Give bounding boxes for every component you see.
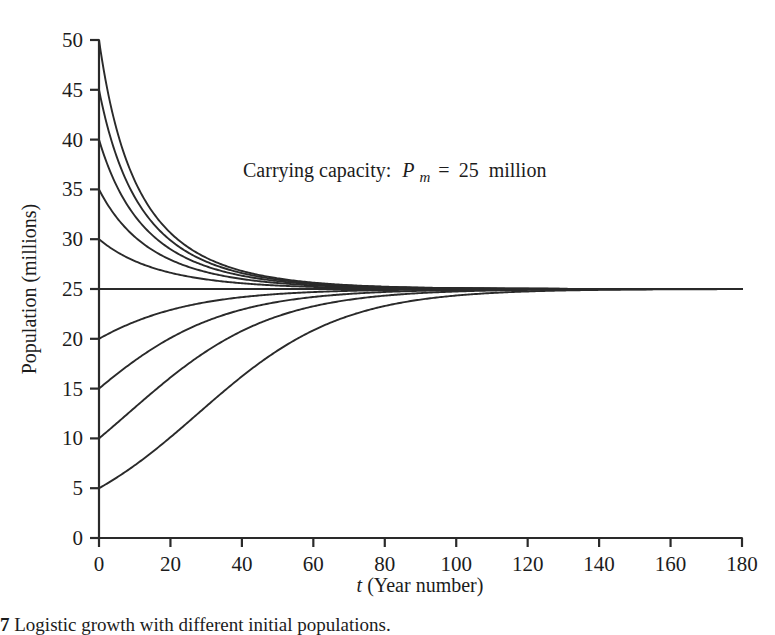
x-tick-label: 140	[583, 552, 615, 576]
x-tick-label: 160	[655, 552, 687, 576]
annotation-value: 25	[459, 159, 479, 181]
y-tick-label: 5	[73, 476, 84, 500]
annotation-unit: million	[489, 159, 547, 181]
x-tick-label: 120	[512, 552, 544, 576]
x-tick-label: 180	[726, 552, 758, 576]
logistic-growth-chart: 05101520253035404550 0204060801001201401…	[0, 0, 775, 612]
y-tick-label: 15	[62, 377, 83, 401]
y-axis-title: Population (millions)	[18, 204, 41, 375]
annotation-symbol: P	[401, 159, 414, 181]
y-tick-label: 35	[62, 177, 83, 201]
annotation-prefix: Carrying capacity:	[243, 159, 391, 182]
y-tick-label: 30	[62, 227, 83, 251]
x-tick-label: 0	[94, 552, 105, 576]
x-tick-label: 40	[231, 552, 252, 576]
x-tick-label: 100	[440, 552, 472, 576]
y-tick-label: 25	[62, 277, 83, 301]
annotation-subscript: m	[420, 169, 431, 185]
x-axis-title: t (Year number)	[357, 574, 484, 597]
y-tick-label: 50	[62, 28, 83, 52]
y-tick-label: 40	[62, 128, 83, 152]
y-tick-label: 45	[62, 78, 83, 102]
figure-number: 7	[0, 614, 10, 635]
y-tick-label: 10	[62, 426, 83, 450]
x-tick-label: 80	[374, 552, 395, 576]
y-tick-label: 20	[62, 327, 83, 351]
x-tick-label: 20	[160, 552, 181, 576]
annotation-equals: =	[438, 159, 449, 181]
figure-caption: 7 Logistic growth with different initial…	[0, 614, 775, 635]
x-tick-label: 60	[303, 552, 324, 576]
figure-container: 05101520253035404550 0204060801001201401…	[0, 0, 775, 635]
figure-caption-text: Logistic growth with different initial p…	[14, 614, 390, 635]
y-tick-label: 0	[73, 526, 84, 550]
